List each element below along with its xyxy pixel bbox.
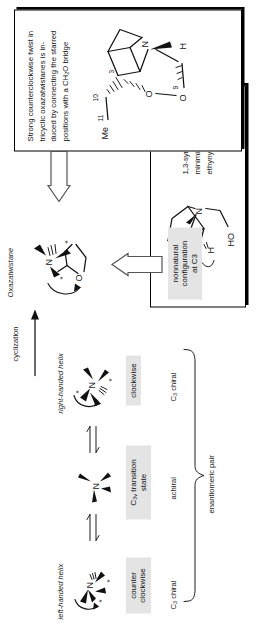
oxazatwistane-label: Oxazatwistane (6, 247, 15, 297)
c3v-transition-state-box: C3v transition state (126, 445, 151, 519)
right-handed-helix-label: right-handed helix (56, 353, 65, 413)
callout-top: Strong counterclockwise twist in tricycl… (14, 9, 242, 151)
stereo-star: * (58, 276, 67, 279)
stereo-star: * (97, 599, 106, 602)
atom-label-h: H (178, 43, 188, 50)
enantiomeric-pair-brace (182, 345, 210, 605)
atom-label-ho: HO (226, 233, 236, 247)
atom-label-10: 10 (92, 93, 99, 101)
callout-top-text: Strong counterclockwise twist in tricycl… (25, 19, 72, 141)
equilibrium-arrow-right (82, 421, 104, 455)
right-handed-helix-structure: N * * (68, 351, 120, 413)
atom-label-o9: O (178, 94, 188, 101)
atom-label-n: N (87, 382, 97, 389)
atom-label-11: 11 (97, 114, 104, 121)
c3-chiral-label-left: C3 chiral (170, 580, 179, 609)
nonnatural-line3: at C3 (190, 232, 199, 294)
stereo-star: * (63, 240, 72, 243)
oxazatwistane-structure: N O * * (20, 215, 92, 301)
nonnatural-configuration-box: nonnatural configuration at C3 (168, 227, 202, 299)
stereo-star: * (74, 390, 83, 393)
cyclization-label: cyclization (12, 326, 21, 361)
callout-top-line4: positions with a CH2O bridge (60, 19, 72, 141)
atom-label-9: 9 (172, 85, 179, 89)
c3v-transition-state-structure: N (74, 461, 118, 505)
left-handed-helix-structure: N * * (68, 553, 120, 615)
callout-top-line1: Strong counterclockwise twist in (25, 19, 37, 141)
counter-clockwise-label-line1: counter clockwise (129, 562, 148, 608)
atom-label-me: Me (100, 126, 110, 139)
counter-clockwise-box: counter clockwise (126, 557, 151, 613)
stereo-star: * (105, 579, 114, 582)
equilibrium-arrow-left (82, 509, 104, 543)
callout-top-line3: duced by connecting the starred (48, 19, 60, 141)
cyclization-arrow (28, 307, 42, 377)
nonnatural-line1: nonnatural (171, 232, 180, 294)
atom-label-o-ring: O (144, 90, 154, 97)
figure-canvas: left-handed helix N * * counter clockwis (0, 0, 256, 627)
c3v-label-sub: 3v (132, 493, 138, 499)
callout-top-line2: tricyclic oxazatwistanes is in- (37, 19, 49, 141)
atom-label-n: N (140, 41, 150, 48)
block-arrow-to-nonnatural (110, 253, 162, 275)
c3-chiral-label-right: C3 chiral (170, 372, 179, 401)
callout-top-structure: Me 11 10 3 N O O 9 H (86, 19, 194, 141)
stereo-star: * (107, 378, 116, 381)
atom-label-o: O (74, 274, 84, 281)
c3v-label-post: transition state (129, 459, 148, 494)
clockwise-label: clockwise (129, 360, 138, 400)
atom-label-3: 3 (108, 69, 115, 73)
nonnatural-line2: configuration (180, 232, 189, 294)
enantiomeric-pair-label: enantiomeric pair (208, 455, 217, 513)
atom-label-n: N (85, 582, 95, 589)
achiral-label: achiral (170, 477, 179, 499)
left-handed-helix-label: left-handed helix (56, 563, 65, 619)
atom-label-n: N (91, 483, 101, 490)
c3v-label-pre: C (129, 500, 138, 506)
clockwise-box: clockwise (126, 355, 141, 405)
block-arrow-from-callout (48, 151, 70, 203)
atom-label-n: N (44, 259, 54, 266)
